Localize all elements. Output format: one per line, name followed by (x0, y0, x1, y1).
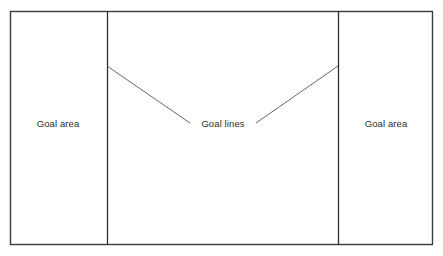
label-goal-area-right: Goal area (365, 119, 408, 129)
label-goal-area-left: Goal area (37, 119, 80, 129)
label-goal-lines: Goal lines (201, 119, 244, 129)
goal-area-diagram: Goal area Goal lines Goal area (0, 0, 443, 256)
